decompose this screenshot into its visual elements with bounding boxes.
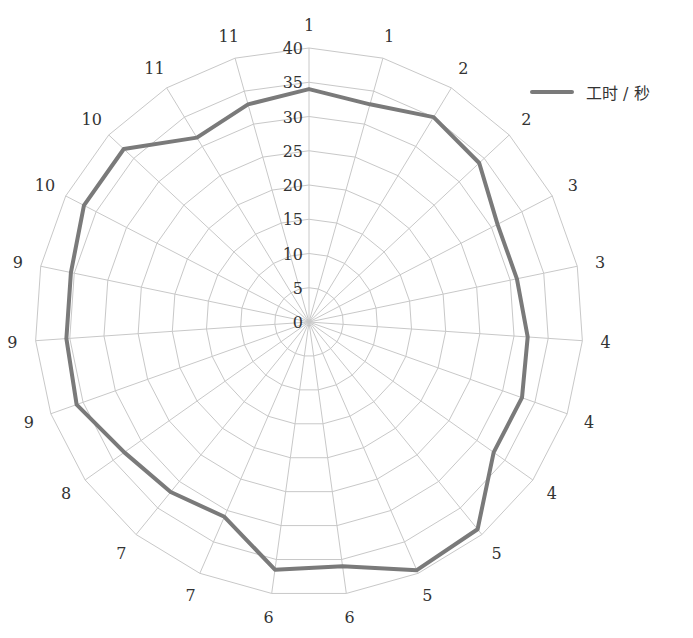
grid-spoke [51, 322, 309, 414]
category-label: 7 [185, 586, 195, 605]
category-label: 1 [384, 27, 394, 46]
radial-tick-label: 15 [283, 210, 303, 229]
category-label: 5 [422, 586, 432, 605]
category-label: 7 [116, 544, 126, 563]
category-label: 1 [304, 16, 314, 35]
category-label: 6 [344, 608, 354, 627]
category-label: 10 [82, 110, 102, 129]
grid-spoke [309, 322, 418, 573]
radial-tick-label: 5 [293, 279, 303, 298]
category-label: 3 [568, 176, 578, 195]
grid-spoke [309, 88, 451, 322]
category-label: 9 [13, 253, 23, 272]
grid-spoke [41, 266, 309, 322]
radial-tick-label: 25 [283, 142, 303, 161]
grid-spoke [66, 196, 309, 322]
legend-label: 工时 / 秒 [586, 80, 650, 104]
radial-tick-label: 40 [283, 39, 303, 58]
radial-tick-label: 20 [283, 176, 303, 195]
grid-spoke [309, 196, 552, 322]
legend: 工时 / 秒 [530, 80, 650, 104]
category-label: 10 [35, 176, 55, 195]
category-label: 4 [547, 484, 557, 503]
category-label: 4 [584, 413, 594, 432]
category-label: 5 [492, 544, 502, 563]
category-label: 4 [601, 333, 611, 352]
category-label: 9 [7, 333, 17, 352]
grid-spoke [309, 322, 533, 480]
grid-spoke [200, 322, 309, 573]
category-label: 6 [263, 608, 273, 627]
grid-spoke [309, 322, 482, 535]
legend-swatch [530, 90, 574, 94]
grid-spoke [136, 322, 309, 535]
grid-spoke [85, 322, 309, 480]
category-label: 2 [458, 59, 468, 78]
category-label: 9 [24, 413, 34, 432]
radial-tick-label: 30 [283, 108, 303, 127]
category-label: 8 [61, 484, 71, 503]
category-label: 3 [595, 253, 605, 272]
radial-tick-label: 0 [293, 313, 303, 332]
category-label: 11 [219, 27, 239, 46]
radial-tick-label: 10 [283, 245, 303, 264]
grid-spoke [309, 266, 577, 322]
category-label: 2 [521, 110, 531, 129]
grid-spoke [109, 135, 309, 322]
category-label: 11 [144, 59, 164, 78]
